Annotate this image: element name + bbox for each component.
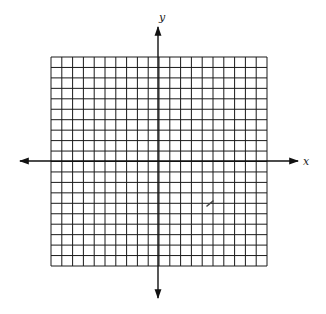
y-axis-label: y [158,11,166,24]
x-axis-label: x [303,155,310,168]
coordinate-plane: x y [0,0,326,314]
